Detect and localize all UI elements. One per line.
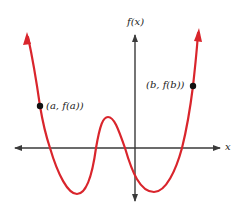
point-a <box>37 103 43 109</box>
point-a-label: (a, f(a)) <box>46 101 84 111</box>
function-curve <box>28 33 198 194</box>
function-graph <box>0 0 247 213</box>
y-axis-label: f(x) <box>127 17 144 27</box>
curve-left-arrow-icon <box>23 32 31 45</box>
x-axis-label: x <box>225 142 231 152</box>
point-b <box>190 83 196 89</box>
curve-right-arrow-icon <box>194 28 202 42</box>
point-b-label: (b, f(b)) <box>146 80 184 90</box>
